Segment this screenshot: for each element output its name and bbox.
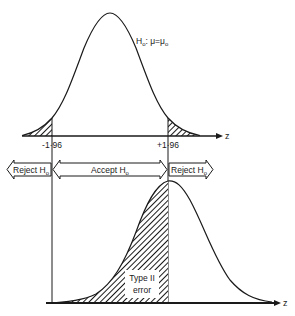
decision-regions: Reject Ho Accept Ho Reject Ho xyxy=(7,160,213,179)
top-axis-arrowhead xyxy=(216,133,223,139)
null-hypothesis-label: Ho: μ=μo xyxy=(136,36,169,47)
type-ii-label-line1: Type II xyxy=(129,273,155,283)
top-axis-label: z xyxy=(225,131,230,141)
left-rejection-tail xyxy=(22,118,52,136)
accept-label: Accept Ho xyxy=(91,165,130,176)
reject-left-label: Reject Ho xyxy=(13,165,50,176)
alternative-distribution: z Type II error xyxy=(46,181,288,308)
right-rejection-tail xyxy=(168,118,200,136)
reject-right-label: Reject Ho xyxy=(171,165,208,176)
bottom-axis-label: z xyxy=(283,298,288,308)
null-distribution: z Ho: μ=μo xyxy=(22,13,230,141)
hypothesis-test-diagram: z Ho: μ=μo -1·96 +1·96 Reject Ho Accept … xyxy=(0,0,295,316)
bottom-axis-arrowhead xyxy=(274,300,281,306)
type-ii-label-line2: error xyxy=(133,285,151,295)
null-curve xyxy=(22,13,200,136)
